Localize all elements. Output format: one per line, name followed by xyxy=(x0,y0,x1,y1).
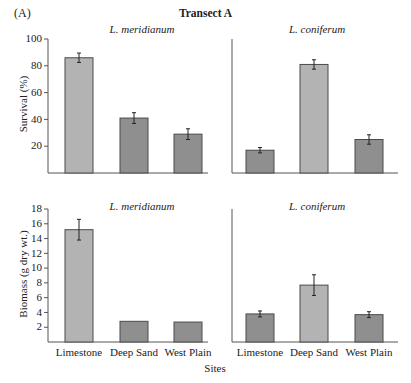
bar xyxy=(65,58,93,173)
bar xyxy=(300,64,328,173)
bar xyxy=(355,315,383,342)
bar xyxy=(174,322,202,342)
bar xyxy=(120,321,148,342)
chart-canvas xyxy=(0,0,411,383)
bar xyxy=(120,118,148,173)
bar xyxy=(246,150,274,173)
bar xyxy=(246,314,274,342)
bar xyxy=(65,230,93,342)
